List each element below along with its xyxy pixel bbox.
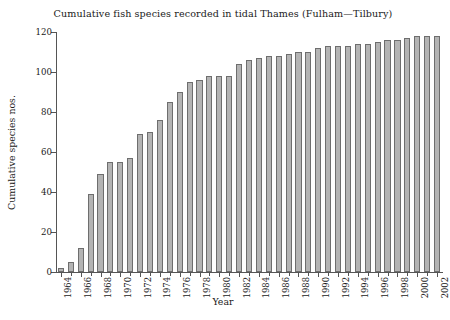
bar (375, 42, 381, 272)
bar (404, 38, 410, 272)
x-tick-mark (348, 272, 349, 276)
x-tick-mark (308, 272, 309, 276)
bar (414, 36, 420, 272)
bar (325, 46, 331, 272)
y-tick-label: 100 (36, 67, 52, 77)
bar (394, 40, 400, 272)
bar (177, 92, 183, 272)
x-tick-mark (229, 272, 230, 276)
x-axis-title: Year (0, 296, 446, 307)
bar (434, 36, 440, 272)
bar (315, 48, 321, 272)
bar (196, 80, 202, 272)
y-tick-label: 0 (47, 267, 52, 277)
x-tick-mark (71, 272, 72, 276)
x-tick-mark (368, 272, 369, 276)
y-tick-label: 40 (41, 187, 52, 197)
y-tick-label: 80 (41, 107, 52, 117)
x-tick-mark (388, 272, 389, 276)
plot-area: 020406080100120 (56, 32, 442, 272)
x-tick-mark (110, 272, 111, 276)
bar (305, 52, 311, 272)
bar (295, 52, 301, 272)
bar (206, 76, 212, 272)
bar (286, 54, 292, 272)
bar (127, 158, 133, 272)
x-tick-mark (427, 272, 428, 276)
bar (157, 120, 163, 272)
y-tick-label: 60 (41, 147, 52, 157)
bar (424, 36, 430, 272)
bar-series (56, 32, 442, 272)
x-tick-mark (190, 272, 191, 276)
bar (365, 44, 371, 272)
x-tick-mark (407, 272, 408, 276)
y-axis-title-label: Cumulative species nos. (6, 95, 17, 210)
bar (335, 46, 341, 272)
bar (276, 56, 282, 272)
y-tick-label: 20 (41, 227, 52, 237)
x-tick-mark (170, 272, 171, 276)
x-tick-mark (150, 272, 151, 276)
y-axis-title: Cumulative species nos. (4, 32, 18, 272)
y-tick-label: 120 (36, 27, 52, 37)
bar (216, 76, 222, 272)
x-tick-mark (249, 272, 250, 276)
bar (256, 58, 262, 272)
bar (236, 64, 242, 272)
bar (226, 76, 232, 272)
x-tick-mark (269, 272, 270, 276)
x-tick-mark (289, 272, 290, 276)
bar (384, 40, 390, 272)
bar (97, 174, 103, 272)
bar (355, 44, 361, 272)
x-tick-mark (91, 272, 92, 276)
bar (68, 262, 74, 272)
x-tick-mark (209, 272, 210, 276)
x-tick-mark (130, 272, 131, 276)
bar (187, 82, 193, 272)
x-tick-mark (328, 272, 329, 276)
bar (117, 162, 123, 272)
chart-title: Cumulative fish species recorded in tida… (0, 8, 446, 19)
bar (107, 162, 113, 272)
bar (266, 56, 272, 272)
bar (147, 132, 153, 272)
bar (78, 248, 84, 272)
bar (88, 194, 94, 272)
bar (246, 60, 252, 272)
bar (345, 46, 351, 272)
bar (167, 102, 173, 272)
bar (137, 134, 143, 272)
